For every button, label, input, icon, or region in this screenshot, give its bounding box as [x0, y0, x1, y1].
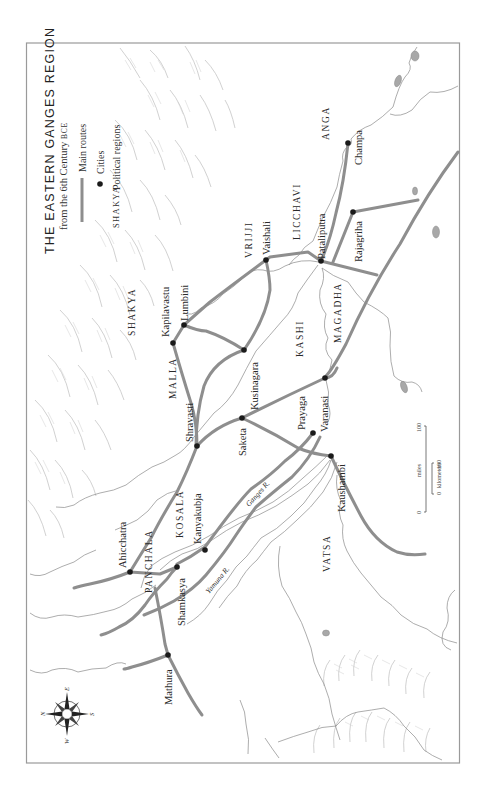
region-label-kosala: KOSALA — [175, 490, 185, 538]
map-title: THE EASTERN GANGES REGION — [43, 27, 57, 254]
city-label-kapilavastu: Kapilavastu — [160, 286, 171, 337]
era-label: BCE — [60, 122, 69, 139]
city-dot-vaishali — [263, 257, 269, 263]
city-label-shamkasya: Shamkasya — [176, 578, 187, 626]
region-label-kashi: KASHI — [295, 320, 305, 357]
city-dot-ahicchatra — [127, 569, 133, 575]
legend-regions-label: Political regions — [111, 125, 122, 190]
city-dot-lumbini — [181, 322, 187, 328]
scale-miles-start: 0 — [416, 511, 422, 514]
compass-north-label: N — [39, 711, 46, 717]
city-label-saketa: Saketa — [237, 428, 248, 456]
compass-east-label: E — [63, 687, 70, 692]
region-label-panchala: PANCHALA — [144, 529, 154, 593]
city-label-lumbini: Lumbini — [179, 285, 190, 321]
city-dot-mathura — [165, 652, 171, 658]
region-label-magadha: MAGADHA — [333, 282, 343, 343]
scale-km-end: 100 — [436, 460, 442, 469]
city-dot-kanyakubja — [202, 547, 208, 553]
city-label-champa: Champa — [353, 130, 364, 165]
legend: THE EASTERN GANGES REGION from the 6th C… — [43, 27, 122, 254]
compass-south-label: S — [88, 712, 95, 716]
region-label-licchavi: LICCHAVI — [292, 183, 302, 240]
region-label-shakya: SHAKYA — [127, 288, 137, 336]
compass-rose-icon: E N S W — [39, 687, 95, 744]
legend-cities-label: Cities — [95, 151, 106, 174]
city-label-shravasti: Shravasti — [184, 403, 195, 442]
scale-miles-end: 100 — [416, 423, 422, 432]
city-dot-shravasti — [194, 443, 200, 449]
city-dot-shamkasya — [174, 564, 180, 570]
city-label-mathura: Mathura — [163, 669, 174, 705]
map-frame — [27, 43, 460, 763]
city-dot-varanasi — [322, 375, 328, 381]
city-label-vaishali: Vaishali — [261, 221, 272, 255]
city-label-ahicchatra: Ahicchatra — [117, 522, 128, 568]
region-label-anga: ANGA — [321, 106, 331, 140]
city-label-kaushambi: Kaushambi — [336, 464, 347, 512]
eastern-ganges-map: Champa Rajagriha Pataliputra Vaishali Lu… — [0, 0, 483, 802]
city-dot-kusinagara — [241, 347, 247, 353]
city-dot-saketa — [239, 415, 245, 421]
city-label-rajagriha: Rajagriha — [353, 221, 364, 262]
scale-bar: 0 miles 100 0 kilometers 100 — [416, 423, 442, 514]
map-subtitle: from the 6th Century BCE — [58, 122, 69, 230]
city-dot-rajagriha — [350, 209, 356, 215]
vindhya-mountains — [314, 650, 430, 753]
city-dot-kaushambi — [328, 453, 334, 459]
region-label-vrijji: VRIJJI — [244, 221, 254, 258]
legend-routes-label: Main routes — [77, 124, 88, 172]
compass-west-label: W — [63, 738, 70, 744]
legend-region-example: SHAKYA — [111, 186, 121, 228]
city-dot-champa — [345, 140, 351, 146]
city-label-kusinagara: Kusinagara — [249, 362, 260, 410]
region-label-malla: MALLA — [168, 357, 178, 399]
city-label-varanasi: Varanasi — [319, 396, 330, 432]
city-label-pataliputra: Pataliputra — [316, 213, 327, 259]
scale-miles-label: miles — [416, 463, 422, 477]
city-label-prayaga: Prayaga — [296, 396, 307, 430]
city-dot-prayaga — [310, 430, 316, 436]
scale-km-start: 0 — [436, 492, 442, 495]
city-dot-kapilavastu — [170, 340, 176, 346]
city-label-kanyakubja: Kanyakubja — [192, 493, 203, 544]
region-label-vatsa: VATSA — [322, 535, 332, 572]
legend-city-marker — [97, 181, 103, 187]
